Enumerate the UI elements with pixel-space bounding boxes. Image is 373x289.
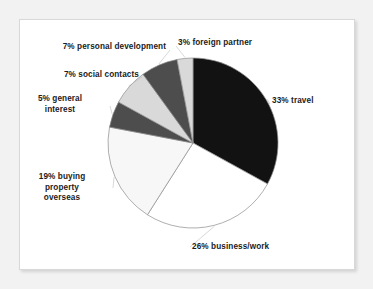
pie-label-foreign-partner: 3% foreign partner xyxy=(178,38,298,49)
leader-line-buying-property xyxy=(113,177,114,188)
pie-slice-group xyxy=(108,58,278,228)
pie-label-general-interest: 5% general interest xyxy=(14,94,106,115)
pie-label-buying-property-overseas: 19% buying property overseas xyxy=(14,172,110,204)
pie-label-business-work: 26% business/work xyxy=(192,242,322,253)
pie-label-personal-development: 7% personal development xyxy=(14,42,166,53)
pie-label-social-contacts: 7% social contacts xyxy=(14,70,139,81)
leader-line-general-interest xyxy=(110,106,112,114)
pie-label-travel: 33% travel xyxy=(272,96,364,107)
